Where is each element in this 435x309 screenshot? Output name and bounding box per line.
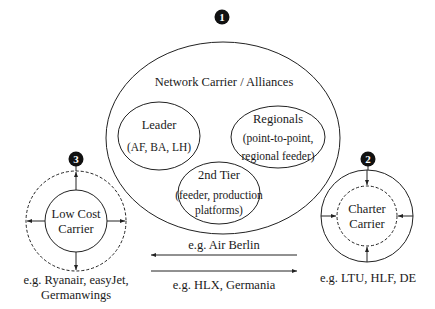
charter-line1: Charter <box>348 203 385 216</box>
badge-one: 1 <box>215 10 230 25</box>
low-cost-outward-arrows <box>27 172 125 270</box>
arrow-right-label: e.g. HLX, Germania <box>173 279 275 292</box>
low-cost-inner-circle <box>45 190 107 252</box>
charter-inner-dashed-circle <box>337 186 397 246</box>
regionals-title: Regionals <box>253 113 303 126</box>
second-tier-desc-line1: (feeder, production <box>175 190 263 202</box>
arrow-left-label: e.g. Air Berlin <box>188 239 260 252</box>
badge-three: 3 <box>69 152 84 167</box>
leader-desc: (AF, BA, LH) <box>127 142 191 154</box>
low-cost-example-line1: e.g. Ryanair, easyJet, <box>23 274 128 287</box>
second-tier-desc-line2: platforms) <box>195 205 243 217</box>
charter-example: e.g. LTU, HLF, DE <box>320 272 416 285</box>
low-cost-line1: Low Cost <box>52 208 101 221</box>
network-title: Network Carrier / Alliances <box>155 76 294 89</box>
second-tier-title: 2nd Tier <box>198 169 240 182</box>
leader-ellipse <box>118 102 200 170</box>
charter-line2: Carrier <box>349 218 384 231</box>
low-cost-example-line2: Germanwings <box>41 289 111 302</box>
regionals-desc-line1: (point-to-point, <box>243 133 314 145</box>
badge-two: 2 <box>361 152 376 167</box>
leader-title: Leader <box>142 119 177 132</box>
low-cost-line2: Carrier <box>58 223 93 236</box>
regionals-desc-line2: regional feeder) <box>241 151 314 163</box>
